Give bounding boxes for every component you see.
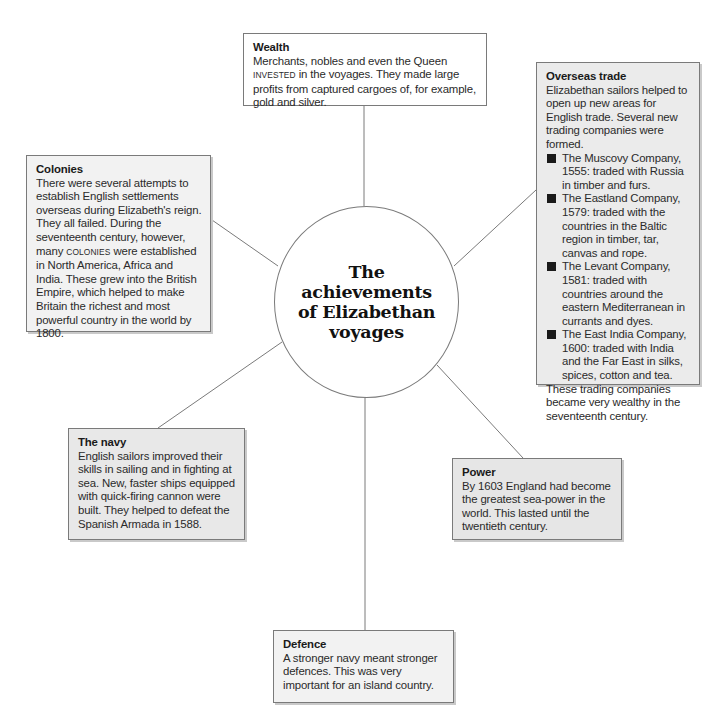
overseas-outro: These trading companies became very weal…: [546, 383, 691, 424]
wealth-text: Merchants, nobles and even the Queen INV…: [253, 55, 476, 109]
square-bullet-icon: [547, 194, 556, 203]
list-item: The Muscovy Company, 1555: traded with R…: [546, 152, 691, 193]
square-bullet-icon: [547, 154, 556, 163]
colonies-text: There were several attempts to establish…: [36, 177, 202, 340]
center-circle: The achievements of Elizabethan voyages: [274, 206, 459, 398]
wealth-keyword: INVESTED: [253, 70, 296, 80]
list-item-text: The Eastland Company, 1579: traded with …: [562, 192, 680, 258]
power-text: By 1603 England had become the greatest …: [462, 480, 613, 534]
wealth-title: Wealth: [253, 41, 478, 55]
colonies-box: Colonies There were several attempts to …: [26, 155, 211, 332]
overseas-title: Overseas trade: [546, 70, 691, 84]
list-item-text: The East India Company, 1600: traded wit…: [562, 328, 686, 381]
power-title: Power: [462, 466, 613, 480]
center-title-line: The: [287, 262, 447, 282]
wealth-box: Wealth Merchants, nobles and even the Qu…: [243, 33, 487, 106]
power-box: Power By 1603 England had become the gre…: [452, 458, 622, 540]
center-title-line: of Elizabethan: [287, 302, 447, 322]
list-item: The Levant Company, 1581: traded with co…: [546, 260, 691, 328]
center-title: The achievements of Elizabethan voyages: [287, 262, 447, 342]
overseas-trade-box: Overseas trade Elizabethan sailors helpe…: [536, 62, 700, 385]
colonies-text-end: were established in North America, Afric…: [36, 245, 197, 340]
navy-box: The navy English sailors improved their …: [68, 428, 245, 540]
connector-overseas: [454, 190, 536, 266]
list-item: The Eastland Company, 1579: traded with …: [546, 192, 691, 260]
defence-title: Defence: [283, 638, 445, 652]
navy-title: The navy: [78, 436, 236, 450]
list-item-text: The Muscovy Company, 1555: traded with R…: [562, 152, 684, 191]
colonies-title: Colonies: [36, 163, 202, 177]
spider-diagram: The achievements of Elizabethan voyages …: [0, 0, 718, 712]
trading-companies-list: The Muscovy Company, 1555: traded with R…: [546, 152, 691, 383]
square-bullet-icon: [547, 262, 556, 271]
wealth-text-start: Merchants, nobles and even the Queen: [253, 55, 447, 67]
list-item-text: The Levant Company, 1581: traded with co…: [562, 260, 685, 326]
colonies-keyword: COLONIES: [66, 247, 110, 257]
center-title-line: voyages: [287, 322, 447, 342]
defence-text: A stronger navy meant stronger defences.…: [283, 652, 445, 693]
overseas-intro: Elizabethan sailors helped to open up ne…: [546, 84, 691, 152]
defence-box: Defence A stronger navy meant stronger d…: [273, 630, 454, 703]
square-bullet-icon: [547, 330, 556, 339]
connector-power: [437, 365, 523, 458]
connector-colonies: [212, 220, 278, 266]
connector-navy: [158, 342, 282, 428]
navy-text: English sailors improved their skills in…: [78, 450, 236, 532]
center-title-line: achievements: [287, 282, 447, 302]
list-item: The East India Company, 1600: traded wit…: [546, 328, 691, 382]
